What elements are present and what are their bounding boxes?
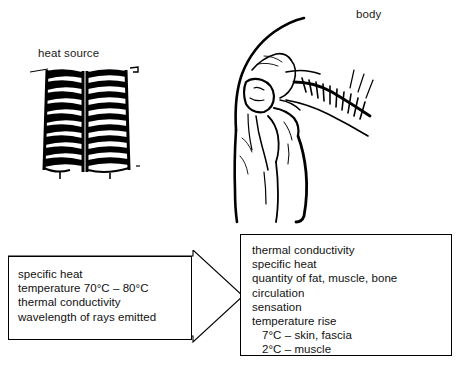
list-item: sensation: [252, 300, 447, 314]
list-item: 2°C – muscle: [252, 342, 447, 356]
body-properties-box: thermal conductivity specific heat quant…: [240, 234, 452, 356]
list-item: quantity of fat, muscle, bone: [252, 271, 447, 285]
diagram-canvas: heat source body: [0, 0, 459, 365]
body-properties-list: thermal conductivity specific heat quant…: [252, 243, 447, 357]
heat-source-label: heat source: [38, 47, 99, 59]
list-item: specific heat: [18, 267, 187, 281]
list-item: circulation: [252, 286, 447, 300]
body-icon: [228, 12, 414, 224]
source-properties-list: specific heat temperature 70°C – 80°C th…: [18, 267, 187, 324]
list-item: 7°C – skin, fascia: [252, 328, 447, 342]
list-item: specific heat: [252, 257, 447, 271]
list-item: thermal conductivity: [18, 295, 187, 309]
list-item: wavelength of rays emitted: [18, 310, 187, 324]
list-item: temperature rise: [252, 314, 447, 328]
heat-source-icon: [30, 62, 148, 184]
list-item: thermal conductivity: [252, 243, 447, 257]
list-item: temperature 70°C – 80°C: [18, 281, 187, 295]
source-properties-box: specific heat temperature 70°C – 80°C th…: [8, 256, 192, 340]
